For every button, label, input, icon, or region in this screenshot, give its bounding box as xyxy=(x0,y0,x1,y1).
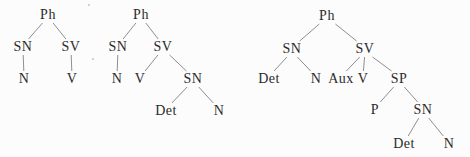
tree-edge-sn2-det2 xyxy=(408,118,419,136)
tree-3-node-sn: SN xyxy=(283,42,302,56)
tree-3-node-sp: SP xyxy=(391,72,408,86)
tree-3-node-p: P xyxy=(371,103,379,117)
tree-3-node-aux: Aux xyxy=(328,72,354,86)
tree-3-node-ph: Ph xyxy=(319,9,335,23)
tree-3-node-det2: Det xyxy=(393,137,415,151)
tree-edge-ph-sv xyxy=(335,24,356,41)
tree-edge-sn-n xyxy=(297,57,310,71)
tree-edge-sn-det xyxy=(274,57,287,71)
tree-edge-sv-sp xyxy=(373,57,392,71)
scan-speck-1 xyxy=(88,4,90,6)
tree-3-node-det: Det xyxy=(258,72,280,86)
scan-speck-2 xyxy=(92,58,94,60)
tree-edge-sn2-n2 xyxy=(429,118,444,136)
tree-3-node-sn2: SN xyxy=(414,103,433,117)
tree-3: PhSNSVDetNAuxVSPPSNDetN xyxy=(0,0,470,157)
tree-3-node-n: N xyxy=(311,72,322,86)
tree-edge-sp-p xyxy=(380,87,393,102)
tree-edge-sp-sn2 xyxy=(404,87,417,102)
tree-edge-sv-aux xyxy=(346,57,359,71)
tree-3-node-v: V xyxy=(358,72,369,86)
tree-3-node-sv: SV xyxy=(356,42,375,56)
tree-3-node-n2: N xyxy=(444,137,455,151)
tree-edge-ph-sn xyxy=(300,24,320,41)
syntax-trees-figure: PhSNSVNVPhSNSVNVSNDetNPhSNSVDetNAuxVSPPS… xyxy=(0,0,470,157)
tree-edge-sv-v xyxy=(363,57,364,71)
